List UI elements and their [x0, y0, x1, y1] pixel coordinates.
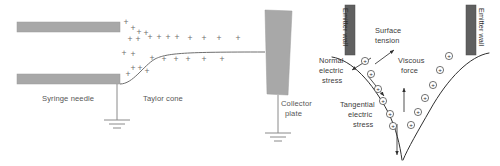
positive-charge-mark: + — [127, 34, 132, 44]
collector-plate-label-line1: Collector — [281, 99, 312, 108]
positive-charge-marks-left: ++++++++++++++++++++++++++ — [121, 17, 240, 79]
syringe-needle-label: Syringe needle — [42, 94, 94, 103]
charge-plus-glyph: + — [381, 97, 385, 104]
positive-charge-mark: + — [219, 54, 224, 64]
charge-plus-glyph: + — [447, 52, 451, 59]
positive-charge-mark: + — [137, 63, 142, 73]
circled-positive-charge-right: + — [421, 94, 428, 101]
circled-positive-charge-left: + — [374, 85, 381, 92]
positive-charge-mark: + — [161, 54, 166, 64]
charge-plus-glyph: + — [363, 57, 367, 64]
normal-electric-stress-label-line2: electric — [319, 66, 343, 75]
circled-positive-charge-right: + — [414, 108, 421, 115]
positive-charge-mark: + — [149, 53, 154, 63]
charge-plus-glyph: + — [369, 70, 373, 77]
positive-charge-mark: + — [216, 33, 221, 43]
charge-plus-glyph: + — [409, 121, 413, 128]
tangential-electric-stress-label-line3: stress — [353, 120, 374, 129]
positive-charge-mark: + — [121, 48, 126, 58]
positive-charge-mark: + — [201, 54, 206, 64]
tangential-electric-stress-label-line2: electric — [348, 110, 372, 119]
circled-positive-charge-right: + — [407, 121, 414, 128]
syringe-needle-bottom-bar — [17, 74, 120, 84]
positive-charge-mark: + — [201, 33, 206, 43]
positive-charge-mark: + — [173, 54, 178, 64]
positive-charge-mark: + — [187, 33, 192, 43]
positive-charge-mark: + — [147, 32, 152, 42]
charge-plus-glyph: + — [391, 122, 395, 129]
charge-plus-glyph: + — [438, 66, 442, 73]
positive-charge-mark: + — [156, 32, 161, 42]
ground-symbol-needle — [104, 84, 130, 128]
right-panel-cone-force-balance: ++++++++++++ Emitter wall Emitter wall S… — [319, 5, 489, 160]
positive-charge-mark: + — [130, 49, 135, 59]
circled-positive-charge-left: + — [379, 97, 386, 104]
positive-charge-mark: + — [123, 17, 128, 27]
viscous-force-label-line1: Viscous — [398, 56, 425, 65]
charge-plus-glyph: + — [416, 108, 420, 115]
collector-plate-label-line2: plate — [285, 109, 302, 118]
emitter-wall-left-label: Emitter wall — [341, 8, 350, 47]
normal-electric-stress-label-line1: Normal — [319, 56, 344, 65]
left-panel-electrospinning-setup: ++++++++++++++++++++++++++ Syringe needl… — [17, 10, 312, 141]
diagram-canvas: ++++++++++++++++++++++++++ Syringe needl… — [0, 0, 500, 166]
collector-plate-shape — [265, 10, 292, 95]
surface-tension-label-line1: Surface — [375, 26, 401, 35]
charge-plus-glyph: + — [376, 85, 380, 92]
circled-positive-charge-left: + — [361, 57, 368, 64]
emitter-wall-right-shape — [466, 5, 476, 55]
normal-electric-stress-label-line3: stress — [322, 76, 343, 85]
circled-positive-charge-right: + — [429, 81, 436, 88]
tangential-electric-stress-label-line1: Tangential — [340, 100, 375, 109]
positive-charge-mark: + — [174, 32, 179, 42]
emitter-wall-right-label: Emitter wall — [477, 8, 486, 47]
positive-charge-mark: + — [130, 63, 135, 73]
charge-plus-glyph: + — [388, 110, 392, 117]
circled-positive-charge-right: + — [445, 52, 452, 59]
positive-charge-mark: + — [185, 54, 190, 64]
circled-positive-charge-left: + — [389, 122, 396, 129]
surface-tension-label-line2: tension — [375, 36, 400, 45]
charge-plus-glyph: + — [431, 81, 435, 88]
positive-charge-mark: + — [144, 66, 149, 76]
surface-tension-arrow — [375, 50, 394, 64]
positive-charge-mark: + — [165, 32, 170, 42]
figure-root: ++++++++++++++++++++++++++ Syringe needl… — [0, 0, 500, 166]
viscous-force-label-line2: force — [401, 66, 418, 75]
positive-charge-mark: + — [135, 34, 140, 44]
positive-charge-mark: + — [235, 33, 240, 43]
circled-positive-charge-right: + — [436, 66, 443, 73]
positive-charge-mark: + — [125, 69, 130, 79]
taylor-cone-label: Taylor cone — [143, 94, 183, 103]
syringe-needle-top-bar — [17, 22, 120, 32]
positive-charge-mark: + — [130, 23, 135, 33]
charge-plus-glyph: + — [423, 94, 427, 101]
circled-positive-charge-left: + — [367, 70, 374, 77]
circled-positive-charge-left: + — [386, 110, 393, 117]
